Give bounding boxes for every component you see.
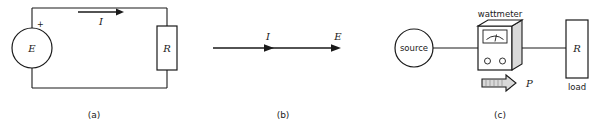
emf-label-b: E — [333, 31, 342, 42]
wattmeter-label: wattmeter — [478, 9, 523, 19]
current-label-a: I — [98, 16, 104, 27]
current-arrow-head-a — [116, 9, 124, 16]
resistor-label-a: R — [162, 43, 171, 54]
panel-a: E + R I (a) — [12, 8, 177, 120]
load-label: load — [568, 82, 586, 92]
load-resistor-label: R — [572, 43, 581, 54]
current-arrow-head-b — [264, 44, 274, 51]
panel-c: source wattmeter — [395, 9, 588, 120]
source-label-c: source — [400, 43, 428, 53]
figure-canvas: E + R I (a) I E (b) sour — [0, 0, 605, 131]
panel-caption-a: (a) — [88, 110, 101, 120]
emf-arrow-head-b — [331, 44, 341, 51]
polarity-plus-sign: + — [37, 20, 44, 29]
power-label: P — [525, 78, 533, 89]
power-flow-arrow — [482, 75, 516, 91]
source-label-a: E — [27, 43, 36, 54]
figure-root: E + R I (a) I E (b) sour — [0, 0, 605, 131]
wattmeter-side-face — [512, 20, 522, 70]
current-label-b: I — [265, 31, 271, 42]
panel-b: I E (b) — [213, 31, 342, 120]
panel-caption-c: (c) — [494, 110, 506, 120]
panel-caption-b: (b) — [277, 110, 290, 120]
